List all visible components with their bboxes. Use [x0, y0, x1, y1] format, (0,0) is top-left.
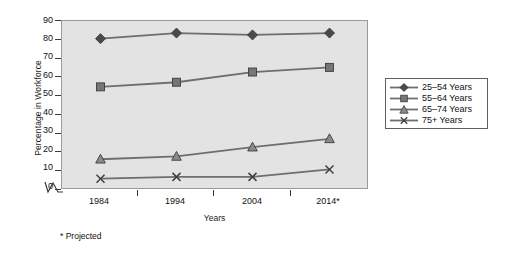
series-3 [96, 134, 335, 163]
series-line [101, 139, 330, 159]
legend-item-55-64[interactable]: 55–64 Years [389, 93, 483, 104]
square-marker-icon [389, 93, 419, 104]
series-1 [96, 28, 335, 44]
footnote: * Projected [60, 231, 102, 241]
legend-label-55-64: 55–64 Years [419, 93, 472, 104]
series-line [101, 169, 330, 178]
data-point [248, 30, 258, 40]
y-tick-label-80: 80 [33, 34, 53, 43]
series-2 [97, 63, 334, 90]
series-canvas [62, 21, 367, 188]
data-point [325, 134, 335, 143]
y-tick-label-30: 30 [33, 126, 53, 135]
y-tick-label-20: 20 [33, 145, 53, 154]
data-point [97, 83, 105, 91]
x-tick-mark-2 [213, 190, 214, 196]
y-tick-label-90: 90 [33, 16, 53, 25]
x-tick-label-2004: 2004 [222, 196, 282, 206]
y-tick-label-10: 10 [33, 163, 53, 172]
y-tick-label-60: 60 [33, 71, 53, 80]
data-point [325, 28, 335, 38]
data-point [172, 28, 182, 38]
diamond-marker-icon [389, 82, 419, 93]
legend-label-75-plus: 75+ Years [419, 115, 462, 126]
legend-label-65-74: 65–74 Years [419, 104, 472, 115]
x-tick-label-2014: 2014* [298, 196, 358, 206]
x-tick-label-1994: 1994 [145, 196, 205, 206]
legend-label-25-54: 25–54 Years [419, 82, 472, 93]
legend: 25–54 Years 55–64 Years 65–74 Years 75+ … [385, 78, 488, 129]
legend-item-25-54[interactable]: 25–54 Years [389, 82, 483, 93]
series-line [101, 33, 330, 39]
chart-figure: Percentage in Workforce 90 80 70 60 50 4… [0, 0, 523, 253]
x-tick-mark-1 [137, 190, 138, 196]
legend-item-75-plus[interactable]: 75+ Years [389, 115, 483, 126]
x-axis-title: Years [61, 213, 368, 223]
x-tick-label-1984: 1984 [69, 196, 129, 206]
series-4 [97, 165, 334, 182]
legend-item-65-74[interactable]: 65–74 Years [389, 104, 483, 115]
data-point [173, 78, 181, 86]
data-point [96, 34, 106, 44]
cross-marker-icon [389, 115, 419, 126]
data-point [249, 68, 257, 76]
y-tick-label-70: 70 [33, 52, 53, 61]
x-tick-mark-3 [290, 190, 291, 196]
data-point [326, 63, 334, 71]
plot-area [61, 20, 368, 189]
series-line [101, 67, 330, 86]
y-axis-ticks: 90 80 70 60 50 40 30 20 10 0 [31, 0, 53, 253]
y-tick-label-50: 50 [33, 89, 53, 98]
y-tick-label-40: 40 [33, 108, 53, 117]
triangle-marker-icon [389, 104, 419, 115]
